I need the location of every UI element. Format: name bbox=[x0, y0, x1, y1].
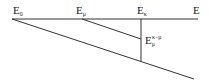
label-emk-sup: κ−μ bbox=[152, 34, 162, 40]
label-e-mu: Eμ bbox=[76, 5, 86, 17]
label-e0-base: E bbox=[13, 4, 20, 16]
label-emk-sub: μ bbox=[152, 41, 155, 47]
long-diagonal-line bbox=[12, 19, 194, 79]
label-e-mu-base: E bbox=[76, 4, 83, 16]
label-e0-sub: 0 bbox=[20, 11, 23, 17]
label-e-kappa: Eκ bbox=[137, 5, 147, 17]
short-diagonal-line bbox=[82, 19, 141, 39]
label-e: E bbox=[193, 5, 200, 16]
label-e-base: E bbox=[193, 4, 200, 16]
energy-diagram bbox=[0, 0, 209, 80]
label-e-kappa-sub: κ bbox=[144, 11, 147, 17]
label-emk-base: E bbox=[145, 34, 152, 46]
label-e-mu-kappa-minus-mu: Eμκ−μ bbox=[145, 34, 162, 47]
label-e-kappa-base: E bbox=[137, 4, 144, 16]
label-e-mu-sub: μ bbox=[83, 11, 86, 17]
label-e0: E0 bbox=[13, 5, 23, 17]
